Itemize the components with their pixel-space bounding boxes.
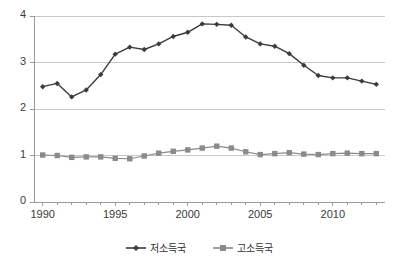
data-point-marker xyxy=(127,156,132,161)
data-point-marker xyxy=(330,151,335,156)
data-point-marker xyxy=(127,44,132,49)
data-point-marker xyxy=(98,154,103,159)
data-point-marker xyxy=(374,82,379,87)
data-point-marker xyxy=(200,145,205,150)
data-point-marker xyxy=(258,152,263,157)
x-axis-tick-label: 2000 xyxy=(168,208,208,220)
data-point-marker xyxy=(40,152,45,157)
y-axis-tick-label: 3 xyxy=(10,55,26,67)
data-point-marker xyxy=(345,75,350,80)
data-point-marker xyxy=(229,145,234,150)
data-point-marker xyxy=(359,151,364,156)
data-series-layer xyxy=(40,21,379,161)
series-low-income xyxy=(40,21,379,99)
data-point-marker xyxy=(214,22,219,27)
data-point-marker xyxy=(69,155,74,160)
square-marker-icon xyxy=(212,242,234,254)
data-point-marker xyxy=(171,149,176,154)
x-axis-ticks xyxy=(43,202,377,206)
y-axis-tick-label: 0 xyxy=(10,194,26,206)
data-point-marker xyxy=(156,41,161,46)
x-axis-tick-label: 2005 xyxy=(240,208,280,220)
x-axis-tick-label: 1990 xyxy=(23,208,63,220)
y-axis-tick-label: 2 xyxy=(10,101,26,113)
data-point-marker xyxy=(330,75,335,80)
series-line xyxy=(43,24,377,97)
chart-legend: 저소득국고소득국 xyxy=(0,240,398,255)
data-point-marker xyxy=(84,154,89,159)
data-point-marker xyxy=(214,144,219,149)
diamond-marker-icon xyxy=(125,242,147,254)
data-point-marker xyxy=(142,153,147,158)
y-axis-tick-label: 1 xyxy=(10,148,26,160)
data-point-marker xyxy=(156,150,161,155)
legend-item-high-income[interactable]: 고소득국 xyxy=(212,240,273,255)
data-point-marker xyxy=(359,78,364,83)
series-high-income xyxy=(40,144,379,162)
line-chart: 43210 19901995200020052010 저소득국고소득국 xyxy=(0,0,398,269)
data-point-marker xyxy=(345,150,350,155)
data-point-marker xyxy=(301,151,306,156)
data-point-marker xyxy=(374,151,379,156)
data-point-marker xyxy=(258,41,263,46)
data-point-marker xyxy=(272,151,277,156)
x-axis-tick-label: 2010 xyxy=(313,208,353,220)
chart-plot-area xyxy=(0,0,398,269)
x-axis-tick-label: 1995 xyxy=(95,208,135,220)
data-point-marker xyxy=(55,153,60,158)
y-axis-tick-label: 4 xyxy=(10,8,26,20)
data-point-marker xyxy=(272,44,277,49)
legend-label: 고소득국 xyxy=(237,240,273,255)
data-point-marker xyxy=(287,150,292,155)
legend-label: 저소득국 xyxy=(150,240,186,255)
legend-item-low-income[interactable]: 저소득국 xyxy=(125,240,186,255)
data-point-marker xyxy=(171,34,176,39)
data-point-marker xyxy=(113,156,118,161)
gridlines xyxy=(34,16,385,156)
data-point-marker xyxy=(243,149,248,154)
data-point-marker xyxy=(185,147,190,152)
series-line xyxy=(43,146,377,159)
data-point-marker xyxy=(142,47,147,52)
data-point-marker xyxy=(316,152,321,157)
data-point-marker xyxy=(40,84,45,89)
